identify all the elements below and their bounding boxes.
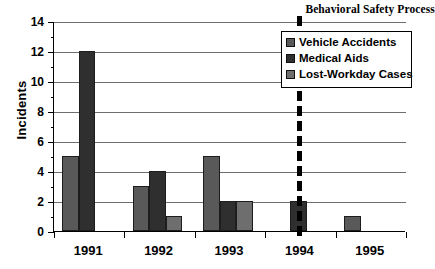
y-axis-minor-tick	[51, 67, 54, 68]
y-axis-tick-label: 2	[10, 195, 44, 209]
x-axis-tick-label: 1991	[53, 243, 123, 258]
y-axis-minor-tick	[51, 37, 54, 38]
y-axis-minor-tick	[51, 127, 54, 128]
y-axis-minor-tick	[51, 157, 54, 158]
bar	[344, 216, 361, 231]
y-axis-tick	[48, 142, 54, 143]
y-axis-tick	[48, 202, 54, 203]
x-axis-tick-label: 1992	[123, 243, 193, 258]
y-axis-tick-label: 4	[10, 165, 44, 179]
y-axis-minor-tick	[51, 217, 54, 218]
x-axis-tick	[124, 232, 125, 238]
y-axis-tick-label: 8	[10, 105, 44, 119]
chart-legend: Vehicle Accidents Medical Aids Lost-Work…	[281, 31, 412, 88]
x-axis-tick	[406, 232, 407, 238]
y-axis-tick-label: 0	[10, 225, 44, 239]
x-axis-tick	[195, 232, 196, 238]
legend-item: Vehicle Accidents	[286, 35, 407, 50]
y-axis-tick-label: 12	[10, 45, 44, 59]
y-axis-tick	[48, 172, 54, 173]
y-axis-tick-label: 14	[10, 15, 44, 29]
x-axis-tick	[54, 232, 55, 238]
y-axis-tick	[48, 82, 54, 83]
legend-item: Medical Aids	[286, 51, 407, 66]
gridline	[54, 22, 406, 23]
x-axis-tick-label: 1995	[335, 243, 405, 258]
y-axis-minor-tick	[51, 187, 54, 188]
gridline	[54, 112, 406, 113]
legend-item-label: Lost-Workday Cases	[299, 69, 413, 81]
y-axis-tick	[48, 112, 54, 113]
bar	[79, 51, 96, 231]
x-axis-tick-label: 1993	[194, 243, 264, 258]
legend-item-label: Medical Aids	[299, 53, 369, 65]
legend-item: Lost-Workday Cases	[286, 67, 407, 82]
legend-swatch-icon	[286, 70, 295, 79]
bar	[133, 186, 150, 231]
y-axis-tick-label: 10	[10, 75, 44, 89]
gridline	[54, 142, 406, 143]
legend-item-label: Vehicle Accidents	[299, 37, 396, 49]
bar	[62, 156, 79, 231]
y-axis-tick	[48, 22, 54, 23]
legend-swatch-icon	[286, 38, 295, 47]
legend-swatch-icon	[286, 54, 295, 63]
y-axis-tick-label: 6	[10, 135, 44, 149]
y-axis-tick	[48, 52, 54, 53]
x-axis-tick	[336, 232, 337, 238]
bar	[203, 156, 220, 231]
x-axis-tick	[265, 232, 266, 238]
annotation-label-behavioral-safety-process: Behavioral Safety Process	[305, 3, 434, 15]
y-axis-minor-tick	[51, 97, 54, 98]
bar	[166, 216, 183, 231]
bar	[220, 201, 237, 231]
bar	[236, 201, 253, 231]
gridline	[54, 172, 406, 173]
x-axis-tick-label: 1994	[264, 243, 334, 258]
bar	[149, 171, 166, 231]
